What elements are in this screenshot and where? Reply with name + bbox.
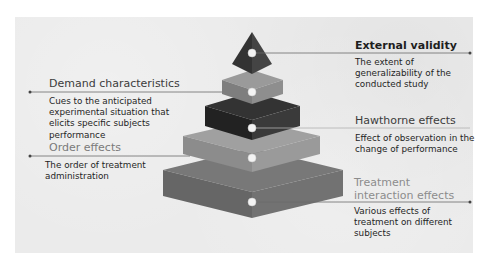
title-treatment-interaction-effects: Treatment interaction effects: [354, 176, 464, 202]
line-end-dot-icon: [469, 52, 472, 55]
desc-treatment-interaction-effects: Various effects of treatment on differen…: [354, 206, 454, 240]
desc-demand-characteristics: Cues to the anticipated experimental sit…: [49, 96, 174, 141]
line-end-dot-icon: [29, 91, 32, 94]
label-treatment-interaction-effects: Treatment interaction effects: [354, 176, 464, 202]
title-external-validity: External validity: [355, 39, 457, 52]
title-hawthorne-effects: Hawthorne effects: [355, 114, 456, 127]
label-external-validity: External validity: [355, 39, 457, 52]
marker-dot-icon: [248, 154, 256, 162]
marker-dot-icon: [248, 198, 256, 206]
line-end-dot-icon: [29, 155, 32, 158]
desc-hawthorne-effects: Effect of observation in the change of p…: [355, 133, 475, 155]
title-demand-characteristics: Demand characteristics: [49, 77, 180, 90]
desc-order-effects: The order of treatment administration: [45, 160, 165, 182]
desc-external-validity: The extent of generalizability of the co…: [355, 57, 467, 91]
label-hawthorne-effects: Hawthorne effects: [355, 114, 456, 127]
label-demand-characteristics: Demand characteristics: [49, 77, 180, 90]
marker-dot-icon: [248, 88, 256, 96]
line-end-dot-icon: [469, 201, 472, 204]
marker-dot-icon: [248, 124, 256, 132]
label-order-effects: Order effects: [49, 141, 121, 154]
marker-dot-icon: [248, 49, 256, 57]
title-order-effects: Order effects: [49, 141, 121, 154]
